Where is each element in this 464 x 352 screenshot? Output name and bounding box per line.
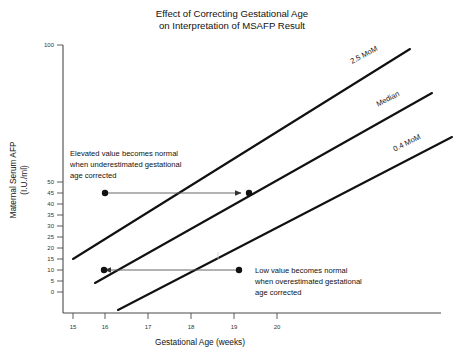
series-label-2-5-mom: 2.5 MoM bbox=[349, 44, 379, 66]
y-tick-label-45: 45 bbox=[47, 190, 54, 196]
annotation-low-line-2: when overestimated gestational bbox=[254, 277, 362, 286]
x-tick-label-16: 16 bbox=[102, 324, 109, 330]
y-tick-label-10: 10 bbox=[47, 267, 54, 273]
y-axis-units: (I.U./ml) bbox=[19, 165, 29, 195]
x-axis-title: Gestational Age (weeks) bbox=[155, 337, 245, 347]
y-axis-title: Maternal Serum AFP bbox=[8, 141, 18, 218]
y-tick-label-40: 40 bbox=[47, 201, 54, 207]
series-label-median: Median bbox=[375, 89, 401, 108]
marker-dot-week16-afp15 bbox=[101, 267, 107, 273]
chart-title-line-1: Effect of Correcting Gestational Age bbox=[156, 8, 308, 19]
annotation-low-line-1: Low value becomes normal bbox=[255, 266, 348, 275]
annotation-elevated-line-1: Elevated value becomes normal bbox=[70, 149, 178, 158]
chart-title-line-2: on Interpretation of MSAFP Result bbox=[159, 20, 305, 31]
y-tick-label-100: 100 bbox=[44, 42, 55, 48]
x-tick-label-15: 15 bbox=[70, 324, 77, 330]
y-tick-label-0: 0 bbox=[51, 289, 55, 295]
marker-dot-week16-afp45 bbox=[102, 190, 108, 196]
x-tick-label-18: 18 bbox=[188, 324, 195, 330]
y-axis-ticks bbox=[57, 45, 63, 292]
annotation-elevated-line-2: when underestimated gestational bbox=[69, 160, 182, 169]
marker-dot-week20-afp15 bbox=[236, 267, 242, 273]
y-tick-label-35: 35 bbox=[47, 212, 54, 218]
x-tick-label-20: 20 bbox=[274, 324, 281, 330]
series-line-median bbox=[95, 93, 432, 283]
x-tick-label-17: 17 bbox=[145, 324, 152, 330]
annotation-low-line-3: age corrected bbox=[255, 288, 301, 297]
marker-dot-week20-afp45 bbox=[246, 190, 252, 196]
annotation-elevated-line-3: age corrected bbox=[70, 171, 116, 180]
x-tick-label-19: 19 bbox=[231, 324, 238, 330]
y-tick-label-20: 20 bbox=[47, 245, 54, 251]
y-tick-label-25: 25 bbox=[47, 234, 54, 240]
y-tick-label-15: 15 bbox=[47, 256, 54, 262]
x-axis-ticks bbox=[73, 313, 277, 319]
series-label-0-4-mom: 0.4 MoM bbox=[392, 132, 422, 153]
chart-figure: Effect of Correcting Gestational Age on … bbox=[0, 0, 464, 352]
y-tick-label-50: 50 bbox=[47, 179, 54, 185]
y-tick-label-5: 5 bbox=[51, 278, 55, 284]
y-tick-label-30: 30 bbox=[47, 223, 54, 229]
chart-canvas: Effect of Correcting Gestational Age on … bbox=[0, 0, 464, 352]
